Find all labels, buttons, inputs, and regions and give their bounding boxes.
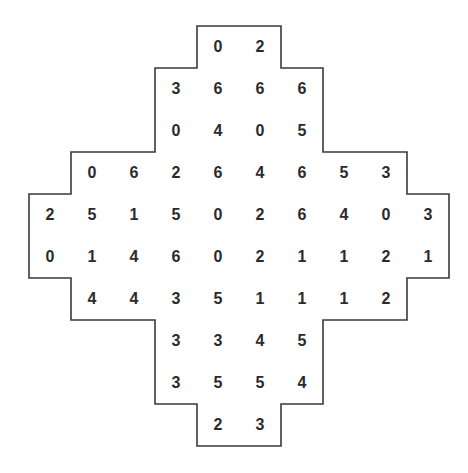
grid-cell: 3 bbox=[407, 194, 449, 236]
grid-cell: 0 bbox=[197, 236, 239, 278]
grid-cell: 1 bbox=[113, 194, 155, 236]
grid-cell: 2 bbox=[239, 194, 281, 236]
grid-cell: 4 bbox=[323, 194, 365, 236]
grid-cell: 1 bbox=[281, 236, 323, 278]
grid-cell: 4 bbox=[113, 236, 155, 278]
grid-cell: 6 bbox=[281, 152, 323, 194]
grid-cell: 1 bbox=[323, 236, 365, 278]
grid-cell: 0 bbox=[239, 110, 281, 152]
grid-cell: 5 bbox=[281, 110, 323, 152]
domino-puzzle-board: 0236660405062646532515026403014602112144… bbox=[0, 0, 468, 473]
grid-cell: 2 bbox=[155, 152, 197, 194]
grid-cell: 0 bbox=[71, 152, 113, 194]
grid-cell: 6 bbox=[239, 68, 281, 110]
grid-cell: 6 bbox=[113, 152, 155, 194]
grid-cell: 0 bbox=[365, 194, 407, 236]
grid-cell: 4 bbox=[113, 278, 155, 320]
grid-cell: 3 bbox=[155, 320, 197, 362]
grid-cell: 1 bbox=[239, 278, 281, 320]
grid-cell: 2 bbox=[197, 404, 239, 446]
grid-cell: 6 bbox=[155, 236, 197, 278]
grid-cell: 4 bbox=[281, 362, 323, 404]
grid-cell: 6 bbox=[197, 68, 239, 110]
grid-cell: 3 bbox=[155, 278, 197, 320]
grid-cell: 1 bbox=[407, 236, 449, 278]
grid-cell: 2 bbox=[365, 236, 407, 278]
grid-cell: 5 bbox=[239, 362, 281, 404]
grid-cell: 0 bbox=[197, 194, 239, 236]
grid-cell: 3 bbox=[365, 152, 407, 194]
grid-cell: 5 bbox=[71, 194, 113, 236]
grid-cell: 2 bbox=[365, 278, 407, 320]
grid-cell: 0 bbox=[197, 26, 239, 68]
grid-cell: 5 bbox=[197, 362, 239, 404]
grid-cell: 3 bbox=[155, 68, 197, 110]
grid-cell: 3 bbox=[239, 404, 281, 446]
grid-cell: 1 bbox=[71, 236, 113, 278]
grid-cell: 2 bbox=[239, 236, 281, 278]
grid-cell: 6 bbox=[281, 194, 323, 236]
grid-cell: 1 bbox=[281, 278, 323, 320]
grid-cell: 5 bbox=[197, 278, 239, 320]
grid-cell: 2 bbox=[29, 194, 71, 236]
grid-cell: 3 bbox=[155, 362, 197, 404]
grid-cell: 5 bbox=[281, 320, 323, 362]
grid-cell: 2 bbox=[239, 26, 281, 68]
grid-cell: 4 bbox=[239, 152, 281, 194]
grid-cell: 4 bbox=[239, 320, 281, 362]
grid-cell: 6 bbox=[197, 152, 239, 194]
grid-cell: 4 bbox=[71, 278, 113, 320]
grid-cell: 5 bbox=[155, 194, 197, 236]
grid-cell: 1 bbox=[323, 278, 365, 320]
grid-cell: 0 bbox=[29, 236, 71, 278]
grid-cell: 0 bbox=[155, 110, 197, 152]
grid-cell: 5 bbox=[323, 152, 365, 194]
grid-cell: 3 bbox=[197, 320, 239, 362]
grid-cell: 4 bbox=[197, 110, 239, 152]
grid-cell: 6 bbox=[281, 68, 323, 110]
